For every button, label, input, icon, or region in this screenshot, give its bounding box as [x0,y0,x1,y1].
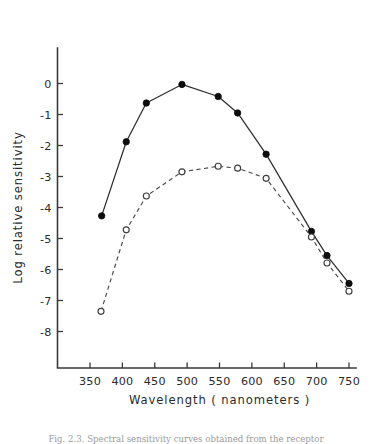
open-circle-series-point [123,227,129,233]
figure-panel: 0-1-2-3-4-5-6-7-835040045050055060065070… [0,0,372,444]
x-tick-label: 350 [79,375,101,388]
filled-circle-series-point [143,100,149,106]
y-axis-title: Log relative sensitivity [11,131,25,283]
y-tick-label: -6 [40,264,52,277]
axis-titles: Wavelength ( nanometers )Log relative se… [11,131,310,407]
x-tick-label: 550 [209,375,231,388]
y-tick-label: -4 [40,202,52,215]
x-tick-label: 600 [241,375,263,388]
x-tick-label: 400 [111,375,133,388]
open-circle-series-point [98,308,104,314]
x-tick-label: 500 [176,375,198,388]
open-circle-series-point [263,175,269,181]
filled-circle-series-line [102,84,349,283]
open-circle-series-point [324,260,330,266]
filled-circle-series-point [234,110,240,116]
filled-circle-series-point [123,139,129,145]
figure-caption: Fig. 2.3. Spectral sensitivity curves ob… [0,433,372,444]
x-tick-label: 650 [273,375,295,388]
filled-circle-series-point [263,151,269,157]
open-circle-series-point [235,165,241,171]
open-circle-series-point [143,193,149,199]
open-circle-series-point [346,288,352,294]
x-tick-label: 750 [338,375,360,388]
filled-circle-series-point [346,280,352,286]
filled-circle-series-point [179,81,185,87]
y-tick-label: -1 [40,109,52,122]
y-tick-label: -3 [40,171,52,184]
y-tick-label: -5 [40,233,52,246]
x-axis-title: Wavelength ( nanometers ) [129,393,310,407]
filled-circle-series-point [324,252,330,258]
open-circle-series-point [308,234,314,240]
spectral-sensitivity-chart: 0-1-2-3-4-5-6-7-835040045050055060065070… [0,0,372,444]
data-series [98,81,352,314]
axes: 0-1-2-3-4-5-6-7-835040045050055060065070… [40,48,360,388]
filled-circle-series-point [215,93,221,99]
open-circle-series-point [179,169,185,175]
y-tick-label: -2 [40,140,52,153]
y-tick-label: -7 [40,295,52,308]
y-tick-label: -8 [40,326,52,339]
axis-lines [58,48,357,368]
y-tick-label: 0 [44,78,51,91]
open-circle-series-point [215,163,221,169]
x-tick-label: 700 [306,375,328,388]
filled-circle-series-point [98,213,104,219]
x-tick-label: 450 [144,375,166,388]
